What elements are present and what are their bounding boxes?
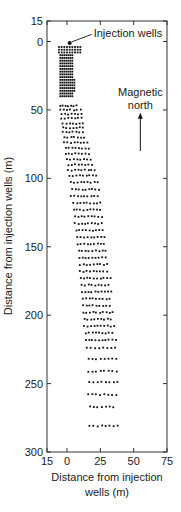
x-tick-label: 75 xyxy=(161,455,173,467)
y-tick-label: 150 xyxy=(25,241,43,253)
north-arrowhead-icon xyxy=(138,113,143,119)
x-axis-title-line-1: Distance from injection xyxy=(51,471,162,483)
x-tick-label: 0 xyxy=(64,455,70,467)
magnetic-north-label: Magnetic xyxy=(118,86,163,98)
y-tick-label: 250 xyxy=(25,378,43,390)
x-tick-label: 25 xyxy=(94,455,106,467)
injection-wells-label: Injection wells xyxy=(94,27,163,39)
x-tick-label: 50 xyxy=(128,455,140,467)
magnetic-north-label: north xyxy=(128,99,153,111)
sample-points xyxy=(58,46,118,427)
y-tick-label: 100 xyxy=(25,172,43,184)
y-tick-label: 200 xyxy=(25,309,43,321)
x-axis-title-line-2: wells (m) xyxy=(84,486,129,498)
y-axis: 15050100150200250300 xyxy=(25,15,167,458)
x-tick-label: 15 xyxy=(41,455,53,467)
y-axis-title: Distance from injection wells (m) xyxy=(2,157,14,315)
y-tick-label: 50 xyxy=(31,104,43,116)
annotations: Injection wellsMagneticnorth xyxy=(72,27,163,151)
y-tick-label: 0 xyxy=(37,36,43,48)
injection-wells-marker xyxy=(68,41,72,45)
scatter-chart: 15050100150200250300 150255075 Injection… xyxy=(0,0,181,512)
y-tick-label: 15 xyxy=(31,15,43,27)
